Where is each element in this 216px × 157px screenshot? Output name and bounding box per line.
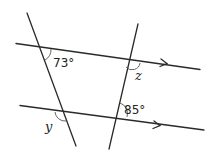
- angle-label-z: z: [134, 68, 142, 83]
- parallel-arrow-top-icon: [160, 59, 167, 67]
- angle-label-73: 73°: [53, 56, 74, 70]
- diagram-canvas: 73° z y 85°: [0, 0, 216, 157]
- angle-label-85: 85°: [124, 103, 145, 117]
- right-transversal: [109, 24, 138, 149]
- parallel-arrow-bottom-icon: [153, 121, 160, 129]
- angle-label-y: y: [44, 119, 53, 134]
- angle-arc-73: [45, 49, 51, 60]
